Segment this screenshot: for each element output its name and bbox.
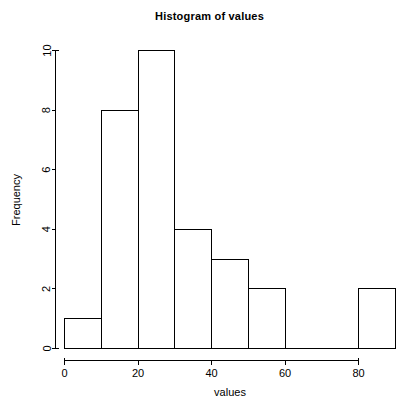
x-axis-tick-label: 80 [352, 367, 364, 379]
x-axis-tick-label: 60 [279, 367, 291, 379]
histogram-bar [101, 110, 138, 348]
y-axis-tick-label: 8 [41, 107, 53, 113]
histogram-plot-area: Histogram of values 0246810 020406080 Fr… [0, 0, 419, 407]
x-axis-tick-label: 20 [132, 367, 144, 379]
y-axis-tick-label: 6 [41, 167, 53, 173]
histogram-bars [65, 51, 396, 349]
histogram-bar [175, 229, 212, 348]
histogram-bar [212, 259, 249, 348]
y-axis: 0246810 [41, 44, 59, 351]
y-axis-tick-label: 0 [41, 345, 53, 351]
x-axis-title: values [214, 386, 246, 398]
y-axis-title: Frequency [10, 174, 22, 226]
y-axis-tick-label: 10 [41, 44, 53, 56]
histogram-bar [138, 51, 175, 349]
x-axis-tick-label: 40 [205, 367, 217, 379]
y-axis-tick-label: 2 [41, 286, 53, 292]
y-axis-line [56, 51, 59, 349]
x-axis-tick-label: 0 [61, 367, 67, 379]
histogram-bar [65, 319, 102, 349]
histogram-bar [359, 289, 396, 349]
chart-svg-canvas: 0246810 020406080 Frequency values [0, 0, 419, 407]
y-axis-tick-label: 4 [41, 226, 53, 232]
x-axis: 020406080 [61, 358, 364, 379]
histogram-bar [248, 289, 285, 349]
x-axis-line [65, 358, 359, 361]
